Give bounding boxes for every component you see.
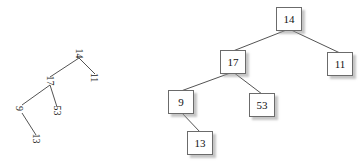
upright-tree-panel: 14171195313 [0,0,360,166]
tree-node-11: 11 [327,52,353,76]
tree-node-9: 9 [168,90,194,114]
tree-node-17: 17 [220,50,246,74]
tree-node-14: 14 [276,7,302,31]
tree-node-53: 53 [249,93,275,117]
tree-diagram-figure: 14171195313 14171195313 [0,0,360,166]
tree-node-13: 13 [187,131,213,155]
